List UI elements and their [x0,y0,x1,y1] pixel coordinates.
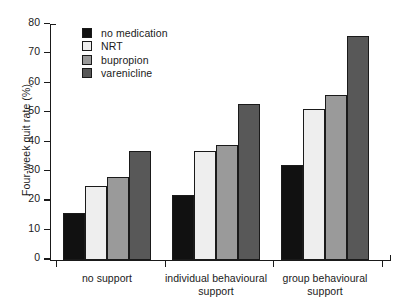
legend-label: NRT [101,40,123,52]
x-axis-label-line: support [250,285,397,298]
y-axis-tick-label: 0 [34,251,40,263]
bar [172,195,194,260]
bar-chart-figure: Four-week quit rate (%) 0102030405060708… [0,0,397,308]
bar [281,165,303,259]
chart-legend: no medicationNRTbupropionvarenicline [82,26,168,80]
x-axis-tick [56,261,57,267]
x-axis-tick [165,261,166,267]
y-axis-tick-label: 50 [28,104,40,116]
legend-swatch-icon [82,28,92,38]
bar-group [172,24,260,260]
bar [238,104,260,260]
bar [129,151,151,260]
axis-top-corner-tick [50,24,56,25]
y-axis-tick: 20 [44,199,50,200]
y-axis-tick-label: 30 [28,163,40,175]
y-axis-tick: 50 [44,111,50,112]
y-axis-tick-label: 80 [28,16,40,28]
bar [107,177,129,259]
y-axis-tick-label: 20 [28,192,40,204]
legend-item: NRT [82,40,168,54]
y-axis-tick-label: 10 [28,222,40,234]
bar-group [281,24,369,260]
y-axis-tick: 80 [44,23,50,24]
legend-label: bupropion [101,54,149,66]
axis-right-corner-tick [390,255,391,261]
bar [194,151,216,260]
x-axis-tick [273,261,274,267]
legend-item: no medication [82,26,168,40]
y-axis-tick-label: 60 [28,75,40,87]
bar [347,36,369,260]
bar [85,186,107,260]
y-axis-line [50,24,51,261]
y-axis-tick: 60 [44,82,50,83]
legend-swatch-icon [82,68,92,78]
legend-label: varenicline [101,67,152,79]
legend-item: bupropion [82,53,168,67]
legend-label: no medication [101,27,168,39]
y-axis-tick: 40 [44,141,50,142]
x-axis-label-line: group behavioural [250,272,397,285]
x-axis-label: group behaviouralsupport [250,272,397,297]
bar [325,95,347,260]
y-axis-tick: 70 [44,52,50,53]
y-axis-tick-label: 70 [28,45,40,57]
bar [216,145,238,260]
bar [63,213,85,260]
y-axis-tick-label: 40 [28,134,40,146]
y-axis-tick: 10 [44,229,50,230]
y-axis-tick: 0 [44,258,50,259]
legend-item: varenicline [82,67,168,81]
x-axis-tick [382,261,383,267]
bar [303,109,325,259]
y-axis-tick: 30 [44,170,50,171]
legend-swatch-icon [82,41,92,51]
x-axis-line [50,260,391,261]
legend-swatch-icon [82,55,92,65]
